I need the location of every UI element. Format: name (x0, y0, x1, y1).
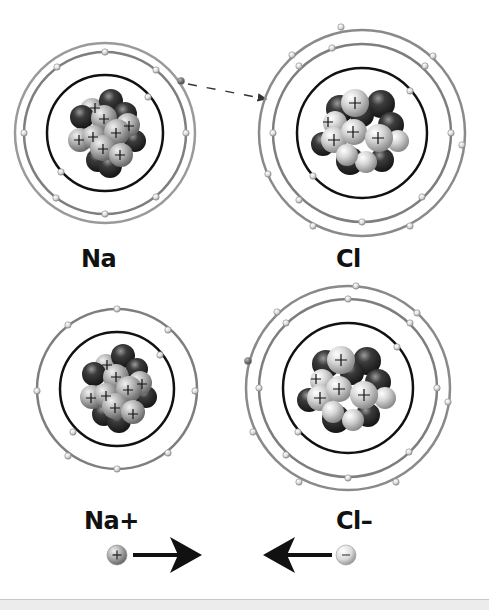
na-nucleus (68, 89, 146, 178)
na-valence-electron (177, 77, 184, 84)
attraction-arrows (107, 537, 356, 573)
arrow-left-icon (263, 537, 332, 573)
bottom-strip (0, 599, 489, 610)
positive-charge-symbol (107, 545, 127, 565)
cl-nucleus (311, 89, 409, 175)
label-na: Na (81, 245, 116, 273)
negative-charge-symbol (336, 545, 356, 565)
ion-cl-minus (244, 283, 451, 490)
atom-na (15, 43, 195, 223)
label-cl-ion: Cl– (336, 507, 372, 535)
label-cl: Cl (336, 245, 361, 273)
cl-ion-nucleus (297, 346, 396, 433)
cl-ion-gained-electron (244, 357, 251, 364)
arrow-right-icon (133, 537, 202, 573)
label-na-ion: Na+ (84, 507, 139, 535)
atom-cl (259, 24, 465, 236)
electron-transfer-arrow (188, 84, 266, 99)
na-ion-nucleus (80, 344, 157, 433)
ion-na-plus (34, 306, 198, 472)
